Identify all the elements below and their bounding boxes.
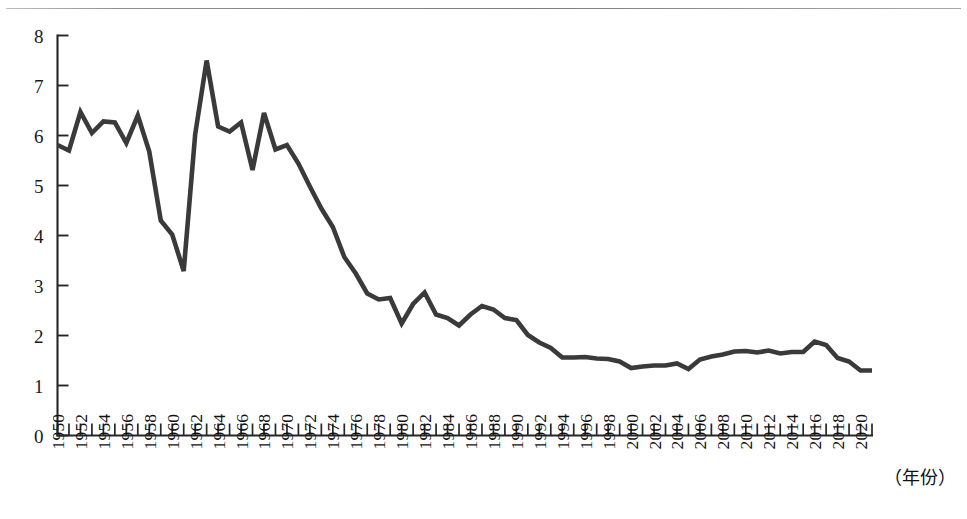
y-tick-label-6: 6	[34, 126, 44, 147]
x-tick-label-1976: 1976	[346, 414, 366, 450]
x-tick-label-2010: 2010	[736, 414, 756, 450]
y-tick-label-5: 5	[34, 176, 44, 197]
x-tick-label-2000: 2000	[622, 414, 642, 450]
x-tick-label-1992: 1992	[530, 414, 550, 450]
x-tick-label-1966: 1966	[232, 414, 252, 450]
y-tick-label-7: 7	[34, 76, 44, 97]
x-tick-label-1970: 1970	[277, 414, 297, 450]
line-chart: 012345678 195019521954195619581960196219…	[0, 0, 967, 519]
x-tick-label-1952: 1952	[71, 414, 91, 450]
y-tick-label-4: 4	[34, 226, 44, 247]
x-tick-label-1986: 1986	[461, 414, 481, 450]
y-tick-label-3: 3	[34, 276, 44, 297]
x-tick-label-1960: 1960	[163, 414, 183, 450]
x-tick-label-1964: 1964	[209, 414, 229, 450]
x-tick-label-1956: 1956	[117, 414, 137, 450]
y-tick-labels: 012345678	[34, 26, 44, 447]
x-axis-caption: （年份）	[884, 467, 956, 488]
figure-container: 012345678 195019521954195619581960196219…	[0, 0, 967, 519]
x-tick-label-1996: 1996	[576, 414, 596, 450]
y-tick-label-1: 1	[34, 376, 44, 397]
x-tick-label-1982: 1982	[415, 414, 435, 450]
y-tick-label-8: 8	[34, 26, 44, 47]
x-tick-label-1990: 1990	[507, 414, 527, 450]
x-tick-label-2002: 2002	[645, 414, 665, 450]
x-tick-label-1998: 1998	[599, 414, 619, 450]
x-tick-label-1980: 1980	[392, 414, 412, 450]
x-tick-label-2014: 2014	[782, 414, 802, 450]
x-tick-label-1994: 1994	[553, 414, 573, 450]
x-tick-label-1974: 1974	[323, 414, 343, 450]
x-tick-label-2016: 2016	[805, 414, 825, 450]
y-tick-label-2: 2	[34, 326, 44, 347]
x-tick-label-1962: 1962	[186, 414, 206, 450]
x-tick-label-1954: 1954	[94, 414, 114, 450]
x-tick-label-2018: 2018	[828, 414, 848, 450]
x-tick-label-1978: 1978	[369, 414, 389, 450]
x-tick-label-1972: 1972	[300, 414, 320, 450]
x-tick-label-1984: 1984	[438, 414, 458, 450]
x-tick-label-2008: 2008	[713, 414, 733, 450]
y-axis	[58, 36, 69, 436]
fertility-rate-line	[58, 61, 873, 371]
x-tick-label-2012: 2012	[759, 414, 779, 450]
x-tick-label-2004: 2004	[667, 414, 687, 450]
y-tick-label-0: 0	[34, 426, 44, 447]
x-tick-label-1988: 1988	[484, 414, 504, 450]
x-tick-label-1950: 1950	[48, 414, 68, 450]
x-tick-label-1958: 1958	[140, 414, 160, 450]
x-tick-label-2020: 2020	[851, 414, 871, 450]
x-tick-label-1968: 1968	[254, 414, 274, 450]
x-tick-label-2006: 2006	[690, 414, 710, 450]
